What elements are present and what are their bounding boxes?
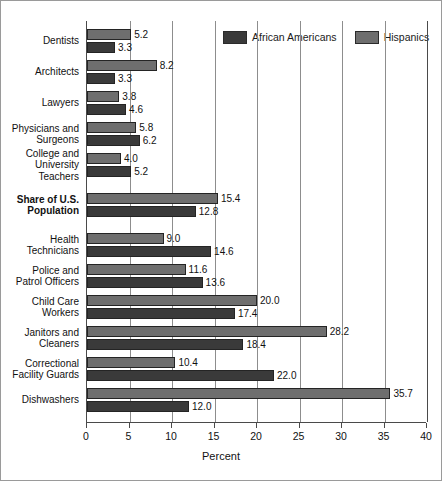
- bar-value-label: 6.2: [140, 135, 157, 146]
- category-label-line: Police and: [0, 265, 79, 277]
- bar-hispanics: [87, 153, 121, 164]
- x-tick-label: 30: [335, 430, 347, 442]
- category-label-line: Lawyers: [0, 97, 79, 109]
- bar-value-label: 28.2: [327, 326, 349, 337]
- bar-value-label: 4.6: [126, 104, 143, 115]
- category-label-line: Cleaners: [0, 338, 79, 350]
- x-tick: [426, 423, 427, 428]
- category-label-line: Share of U.S.: [0, 194, 79, 206]
- chart-container: African Americans Hispanics 5.23.38.23.3…: [0, 0, 442, 481]
- x-tick: [256, 423, 257, 428]
- bar-value-label: 3.8: [119, 91, 136, 102]
- category-label: CorrectionalFacility Guards: [0, 358, 79, 381]
- bar-value-label: 10.4: [175, 357, 197, 368]
- bar-hispanics: [87, 60, 157, 71]
- x-tick: [171, 423, 172, 428]
- bar-value-label: 22.0: [274, 370, 296, 381]
- bar-hispanics: [87, 122, 136, 133]
- bar-value-label: 5.2: [131, 166, 148, 177]
- category-label: Police andPatrol Officers: [0, 265, 79, 288]
- bar-hispanics: [87, 388, 390, 399]
- x-tick: [129, 423, 130, 428]
- bar-african-americans: [87, 246, 211, 257]
- category-label: Janitors andCleaners: [0, 327, 79, 350]
- bar-value-label: 4.0: [121, 153, 138, 164]
- bar-value-label: 9.0: [164, 233, 181, 244]
- category-label-line: Correctional: [0, 358, 79, 370]
- bar-hispanics: [87, 264, 186, 275]
- bar-value-label: 20.0: [257, 295, 279, 306]
- bar-african-americans: [87, 104, 126, 115]
- category-label-line: Health: [0, 234, 79, 246]
- category-label-line: Facility Guards: [0, 369, 79, 381]
- x-tick: [299, 423, 300, 428]
- bar-value-label: 5.2: [131, 29, 148, 40]
- gridline: [385, 21, 386, 422]
- bar-value-label: 14.6: [211, 246, 233, 257]
- category-label: Physicians andSurgeons: [0, 123, 79, 146]
- bar-hispanics: [87, 193, 218, 204]
- x-tick: [214, 423, 215, 428]
- bar-african-americans: [87, 370, 274, 381]
- bar-value-label: 15.4: [218, 193, 240, 204]
- gridline: [257, 21, 258, 422]
- category-label-line: Physicians and: [0, 123, 79, 135]
- bar-value-label: 11.6: [186, 264, 208, 275]
- bar-value-label: 3.3: [115, 42, 132, 53]
- bar-value-label: 8.2: [157, 60, 174, 71]
- gridline: [342, 21, 343, 422]
- category-label-line: Surgeons: [0, 134, 79, 146]
- bar-hispanics: [87, 326, 327, 337]
- bar-value-label: 5.8: [136, 122, 153, 133]
- bar-value-label: 35.7: [390, 388, 412, 399]
- category-label-line: College and: [0, 148, 79, 160]
- x-tick-label: 0: [83, 430, 89, 442]
- bar-african-americans: [87, 73, 115, 84]
- x-tick-label: 35: [378, 430, 390, 442]
- bar-african-americans: [87, 206, 196, 217]
- bar-african-americans: [87, 308, 235, 319]
- category-label-line: Population: [0, 205, 79, 217]
- category-label-line: Workers: [0, 307, 79, 319]
- category-label: Child CareWorkers: [0, 296, 79, 319]
- x-tick: [341, 423, 342, 428]
- bar-african-americans: [87, 339, 243, 350]
- category-label: College andUniversityTeachers: [0, 148, 79, 183]
- bar-value-label: 18.4: [243, 339, 265, 350]
- category-label: Architects: [0, 66, 79, 78]
- category-label-line: Architects: [0, 66, 79, 78]
- category-label-line: University: [0, 159, 79, 171]
- x-axis-title: Percent: [1, 450, 441, 462]
- x-tick-label: 15: [208, 430, 220, 442]
- category-label-line: Dishwashers: [0, 394, 79, 406]
- gridline: [300, 21, 301, 422]
- x-tick-label: 10: [165, 430, 177, 442]
- category-label-line: Patrol Officers: [0, 276, 79, 288]
- bar-hispanics: [87, 29, 131, 40]
- bar-value-label: 12.8: [196, 206, 218, 217]
- x-tick-label: 5: [126, 430, 132, 442]
- category-label-line: Teachers: [0, 171, 79, 183]
- bar-hispanics: [87, 91, 119, 102]
- x-tick-label: 20: [250, 430, 262, 442]
- bar-african-americans: [87, 135, 140, 146]
- bar-african-americans: [87, 166, 131, 177]
- x-tick-label: 25: [293, 430, 305, 442]
- bar-hispanics: [87, 295, 257, 306]
- category-label: Dishwashers: [0, 394, 79, 406]
- bar-african-americans: [87, 42, 115, 53]
- bar-hispanics: [87, 357, 175, 368]
- category-label-line: Child Care: [0, 296, 79, 308]
- x-tick: [86, 423, 87, 428]
- bar-value-label: 17.4: [235, 308, 257, 319]
- bar-value-label: 12.0: [189, 401, 211, 412]
- x-tick-label: 40: [420, 430, 432, 442]
- bar-rows: 5.23.38.23.33.84.65.86.24.05.215.412.89.…: [87, 21, 426, 422]
- category-label-line: Janitors and: [0, 327, 79, 339]
- category-label: Share of U.S.Population: [0, 194, 79, 217]
- bar-african-americans: [87, 277, 203, 288]
- x-tick: [384, 423, 385, 428]
- gridline: [215, 21, 216, 422]
- category-label: Dentists: [0, 35, 79, 47]
- gridline: [427, 21, 428, 422]
